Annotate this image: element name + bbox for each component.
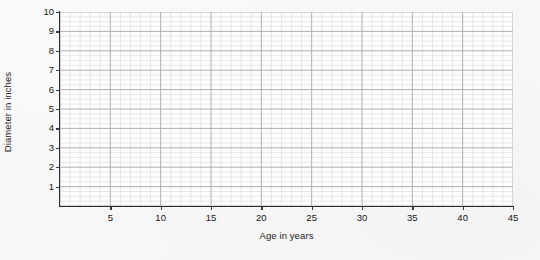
x-axis-tick-label: 5 bbox=[95, 213, 125, 223]
x-axis-tick-mark bbox=[312, 207, 313, 210]
y-axis-tick-mark bbox=[56, 51, 59, 52]
y-axis-tick-mark bbox=[56, 187, 59, 188]
y-axis-tick-mark bbox=[56, 148, 59, 149]
x-axis-tick-label: 30 bbox=[347, 213, 377, 223]
x-axis-title: Age in years bbox=[60, 230, 513, 241]
plot-area bbox=[60, 12, 513, 206]
x-axis-tick-mark bbox=[161, 207, 162, 210]
x-axis-tick-label: 20 bbox=[246, 213, 276, 223]
y-axis-tick-label: 6 bbox=[28, 85, 54, 95]
chart-figure: Diameter in inches 12345678910 510152025… bbox=[0, 0, 540, 260]
x-axis-tick-label: 15 bbox=[196, 213, 226, 223]
y-axis-tick-mark bbox=[56, 109, 59, 110]
y-axis-tick-mark bbox=[56, 90, 59, 91]
y-axis-tick-label: 2 bbox=[28, 162, 54, 172]
x-axis-tick-mark bbox=[110, 207, 111, 210]
x-axis-tick-label: 25 bbox=[297, 213, 327, 223]
x-axis-tick-mark bbox=[362, 207, 363, 210]
grid-lines bbox=[60, 12, 513, 206]
y-axis-tick-label: 1 bbox=[28, 182, 54, 192]
y-axis-tick-mark bbox=[56, 12, 59, 13]
x-axis-tick-label: 45 bbox=[498, 213, 528, 223]
y-axis-tick-mark bbox=[56, 31, 59, 32]
y-axis-tick-label: 8 bbox=[28, 46, 54, 56]
y-axis-spine bbox=[59, 11, 60, 207]
x-axis-tick-label: 10 bbox=[146, 213, 176, 223]
x-axis-tick-mark bbox=[261, 207, 262, 210]
y-axis-tick-label: 10 bbox=[28, 7, 54, 17]
y-axis-tick-mark bbox=[56, 128, 59, 129]
x-axis-tick-label: 35 bbox=[397, 213, 427, 223]
x-axis-spine bbox=[59, 206, 514, 207]
y-axis-tick-label: 7 bbox=[28, 65, 54, 75]
y-axis-tick-mark bbox=[56, 167, 59, 168]
y-axis-title: Diameter in inches bbox=[0, 8, 16, 216]
x-axis-tick-mark bbox=[211, 207, 212, 210]
y-axis-tick-label: 4 bbox=[28, 123, 54, 133]
x-axis-tick-mark bbox=[463, 207, 464, 210]
y-axis-tick-label: 9 bbox=[28, 26, 54, 36]
y-axis-tick-label: 3 bbox=[28, 143, 54, 153]
y-axis-tick-mark bbox=[56, 70, 59, 71]
x-axis-tick-mark bbox=[513, 207, 514, 210]
y-axis-tick-label: 5 bbox=[28, 104, 54, 114]
x-axis-tick-label: 40 bbox=[448, 213, 478, 223]
x-axis-tick-mark bbox=[412, 207, 413, 210]
